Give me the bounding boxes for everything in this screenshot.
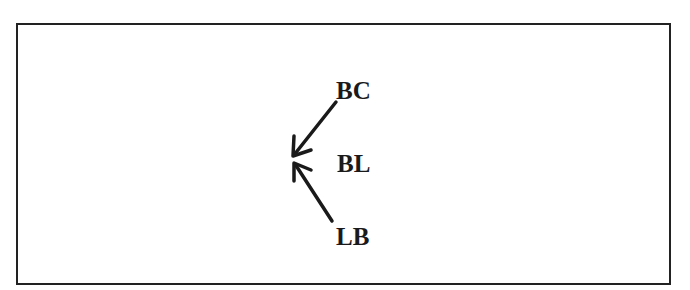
label-lb: LB bbox=[336, 224, 369, 249]
arrow-from-bc bbox=[293, 102, 336, 156]
arrow-from-lb bbox=[294, 163, 332, 221]
label-bc: BC bbox=[336, 78, 371, 103]
label-bl: BL bbox=[337, 151, 370, 176]
